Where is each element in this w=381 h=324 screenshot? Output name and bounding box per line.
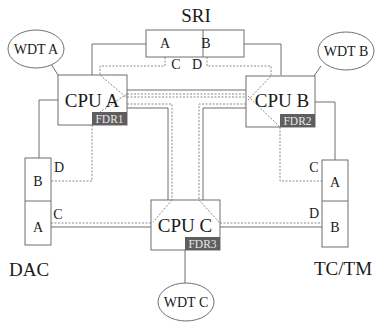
wdt-b-label: WDT B [324,44,368,59]
link-wdt-b-cpu-b [314,66,321,76]
sri-port-b: B [201,36,210,51]
sri-label: SRI [181,5,211,26]
tctm-port-a: A [330,175,341,190]
cpu-b-label: CPU B [255,90,309,111]
sri-link-d-label: D [192,57,202,72]
link-wdt-a-cpu-a [51,64,58,75]
wdt-c-label: WDT C [164,295,208,310]
tctm-link-c-label: C [309,160,318,175]
link-cpu-b-tctm [315,102,335,160]
tctm-port-b: B [330,220,339,235]
sri-port-a: A [160,36,171,51]
cpu-c-label: CPU C [158,215,212,236]
fdr2-label: FDR2 [283,115,311,127]
sri-link-c-label: C [171,57,180,72]
dac-label: DAC [9,259,49,280]
dac-port-b: B [33,174,42,189]
wdt-a-label: WDT A [14,42,59,57]
dac-port-a: A [33,220,44,235]
dac-link-c-label: C [53,207,62,222]
tctm-link-d-label: D [309,206,319,221]
dashed-link-sri-d [207,57,271,75]
link-cpu-a-cpu-c [127,108,168,200]
dashed-link-cpu-a-cpu-c [127,104,172,200]
link-sri-b-cpu-b [244,44,281,75]
dashed-link-sri-c [100,57,165,75]
tctm-label: TC/TM [314,258,372,279]
dac-link-d-label: D [54,160,64,175]
dashed-link-cpu-b-cpu-c [199,104,246,200]
system-architecture-diagram: SRI A B C D WDT A WDT B WDT C CPU A FDR1… [0,0,381,324]
link-cpu-a-dac [39,100,58,158]
fdr3-label: FDR3 [188,238,216,250]
cpu-a-label: CPU A [65,90,120,111]
fdr1-label: FDR1 [95,113,123,125]
link-cpu-b-cpu-c [203,108,246,200]
